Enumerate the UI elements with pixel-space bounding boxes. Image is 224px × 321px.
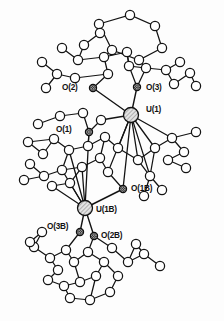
carbon-atom <box>33 119 42 128</box>
carbon-atom <box>99 257 108 266</box>
carbon-atom <box>83 247 92 256</box>
oxygen-atom <box>119 185 126 192</box>
carbon-atom <box>141 63 150 72</box>
carbon-atom <box>113 271 122 280</box>
carbon-atom <box>163 155 172 164</box>
carbon-atom <box>65 178 74 187</box>
carbon-atom <box>123 257 132 266</box>
carbon-atom <box>125 10 134 19</box>
carbon-atom <box>19 175 28 184</box>
atom-label-u1: U(1) <box>146 106 161 114</box>
carbon-atom <box>43 275 52 284</box>
carbon-atom <box>49 134 58 143</box>
atom-label-o3: O(3) <box>146 84 162 92</box>
carbon-atom <box>25 159 34 168</box>
carbon-atom <box>105 287 114 296</box>
oxygen-atom <box>76 228 83 235</box>
carbon-atom <box>47 181 56 190</box>
carbon-atom <box>145 171 154 180</box>
oxygen-atom <box>89 84 96 91</box>
atom-label-u1b: U(1B) <box>96 206 117 214</box>
carbon-atom <box>52 69 61 78</box>
carbon-atom <box>77 162 86 171</box>
carbon-atom <box>161 65 170 74</box>
carbon-atom <box>157 43 166 52</box>
oxygen-atom <box>90 232 97 239</box>
carbon-atom <box>113 143 122 152</box>
carbon-atom <box>78 108 87 117</box>
carbon-atom <box>134 55 143 64</box>
molecular-structure-figure: O(2)O(3)U(1)O(1)O(1B)U(1B)O(3B)O(2B) <box>0 0 224 321</box>
carbon-atom <box>25 237 34 246</box>
carbon-atom <box>39 171 48 180</box>
carbon-atom <box>185 68 194 77</box>
carbon-atom <box>107 243 116 252</box>
carbon-atom <box>175 57 184 66</box>
carbon-atom <box>181 163 190 172</box>
carbon-atom <box>38 149 47 158</box>
carbon-atom <box>73 55 82 64</box>
carbon-atom <box>37 57 46 66</box>
carbon-atom <box>157 185 166 194</box>
oxygen-atom <box>133 83 140 90</box>
carbon-atom <box>53 265 62 274</box>
carbon-atom <box>96 115 105 124</box>
carbon-atom <box>103 167 112 176</box>
carbon-atom <box>107 45 116 54</box>
carbon-atom <box>37 227 46 236</box>
carbon-atom <box>55 111 64 120</box>
carbon-atom <box>57 43 66 52</box>
carbon-atom <box>69 257 78 266</box>
carbon-atom <box>95 28 104 37</box>
carbon-atom <box>65 293 74 302</box>
oxygen-atoms <box>76 83 140 239</box>
carbon-atom <box>45 253 54 262</box>
carbon-atom <box>155 261 164 270</box>
carbon-atom <box>191 81 200 90</box>
carbon-atom <box>122 47 131 56</box>
carbon-atom <box>95 153 104 162</box>
oxygen-atom <box>85 128 92 135</box>
carbon-atom <box>133 155 142 164</box>
carbon-atom <box>91 271 100 280</box>
uranium-atom <box>124 108 139 123</box>
atom-label-o1: O(1) <box>56 126 72 134</box>
carbon-atom <box>169 79 178 88</box>
carbon-atom <box>100 132 109 141</box>
carbon-atom <box>94 19 103 28</box>
carbon-atom <box>83 141 92 150</box>
carbon-atom <box>85 295 94 304</box>
carbon-atom <box>75 277 84 286</box>
carbon-atom <box>23 137 32 146</box>
carbon-atom <box>139 249 148 258</box>
carbon-atom <box>59 281 68 290</box>
atom-label-o3b: O(3B) <box>47 223 68 231</box>
atom-label-o2b: O(2B) <box>101 232 122 240</box>
uranium-atom <box>78 201 93 216</box>
carbon-atom <box>61 245 70 254</box>
carbon-atom <box>131 239 140 248</box>
atom-label-o1b: O(1B) <box>131 185 152 193</box>
carbon-atom <box>79 40 88 49</box>
carbon-atom <box>70 73 79 82</box>
structure-drawing <box>0 0 224 321</box>
carbon-atom <box>99 52 108 61</box>
carbon-atom <box>191 127 200 136</box>
carbon-atom <box>103 69 112 78</box>
carbon-atom <box>124 61 133 70</box>
carbon-atom <box>57 165 66 174</box>
atom-label-o2: O(2) <box>62 84 78 92</box>
carbon-atom <box>150 143 159 152</box>
carbon-atom <box>64 145 73 154</box>
carbon-atom <box>179 147 188 156</box>
carbon-atom <box>41 83 50 92</box>
carbon-atom <box>150 21 159 30</box>
carbon-atom <box>167 133 176 142</box>
